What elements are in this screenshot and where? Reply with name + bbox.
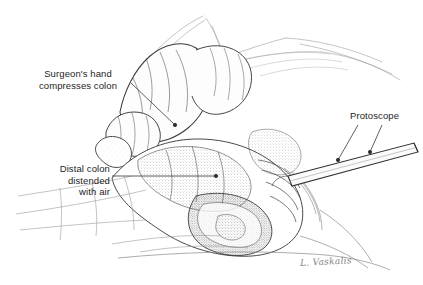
- label-surgeon-hand: Surgeon's hand compresses colon: [26, 68, 130, 91]
- label-proctoscope: Protoscope: [350, 110, 422, 122]
- anatomical-illustration: [0, 0, 423, 285]
- illustration-page: Surgeon's hand compresses colon Distal c…: [0, 0, 423, 285]
- upper-drape-folds: [240, 52, 348, 76]
- label-distal-colon: Distal colon distended with air: [14, 163, 110, 198]
